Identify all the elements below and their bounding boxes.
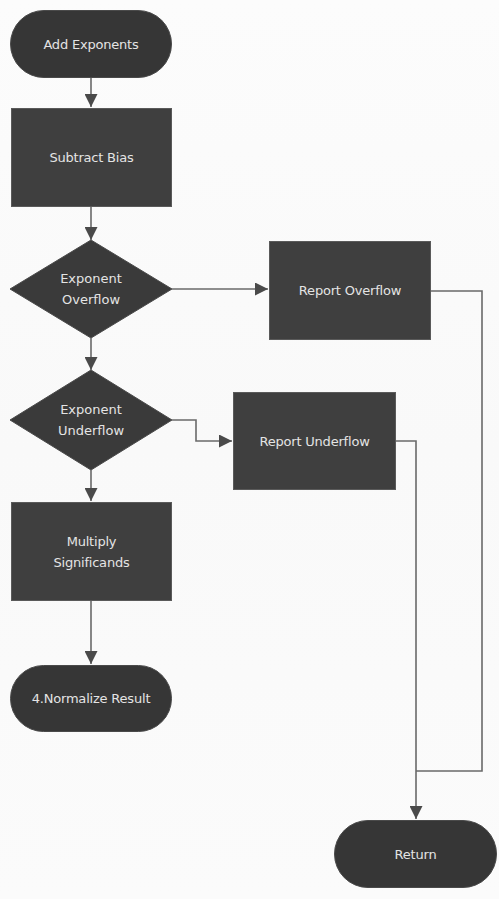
connectors — [0, 0, 499, 899]
exponent-underflow-node: Exponent Underflow — [30, 395, 152, 445]
edge-report-underflow-to-return — [396, 441, 416, 819]
normalize-result-label: 4.Normalize Result — [32, 688, 151, 709]
report-underflow-label: Report Underflow — [259, 431, 369, 452]
multiply-significands-label: Multiply Significands — [53, 531, 129, 573]
exponent-overflow-label: Exponent Overflow — [60, 268, 122, 310]
flowchart: Add Exponents Subtract Bias Exponent Ove… — [0, 0, 499, 899]
report-overflow-label: Report Overflow — [299, 280, 401, 301]
subtract-bias-label: Subtract Bias — [49, 147, 133, 168]
return-label: Return — [395, 844, 437, 865]
exponent-overflow-node: Exponent Overflow — [30, 264, 152, 314]
edge-report-overflow-to-return — [416, 291, 482, 771]
edge-underflow-to-report — [172, 420, 232, 441]
add-exponents-label: Add Exponents — [43, 34, 138, 55]
exponent-underflow-label: Exponent Underflow — [58, 399, 124, 441]
